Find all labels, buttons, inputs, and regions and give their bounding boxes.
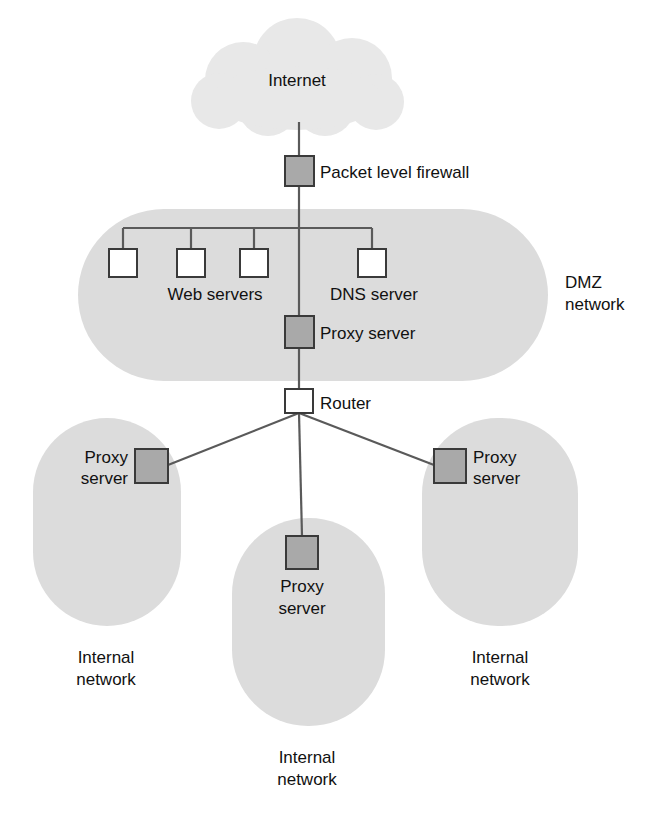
network-diagram: Internet Packet level firewall Web serve… <box>0 0 650 818</box>
link-router-center-proxy <box>299 413 302 536</box>
zone-internal-left-label-line1: Internal <box>78 648 135 667</box>
node-dmz-proxy-server[interactable] <box>285 316 314 348</box>
zone-internal-right-label-line2: network <box>470 670 530 689</box>
node-right-proxy-server[interactable] <box>434 449 466 483</box>
left-proxy-server-label-line1: Proxy <box>85 448 129 467</box>
node-left-proxy-server[interactable] <box>135 449 168 483</box>
zone-internal-right-label-line1: Internal <box>472 648 529 667</box>
dmz-proxy-server-label: Proxy server <box>320 324 416 343</box>
link-router-left-proxy <box>168 413 299 465</box>
left-proxy-server-label-line2: server <box>81 469 129 488</box>
node-router[interactable] <box>285 389 313 413</box>
zone-internal-center-label-line1: Internal <box>279 748 336 767</box>
zone-dmz-label-line2: network <box>565 295 625 314</box>
web-servers-label: Web servers <box>167 285 262 304</box>
network-diagram-canvas: Internet Packet level firewall Web serve… <box>0 0 650 818</box>
right-proxy-server-label-line2: server <box>473 469 521 488</box>
center-proxy-server-label-line1: Proxy <box>280 577 324 596</box>
node-web-server-2[interactable] <box>177 249 205 277</box>
dns-server-label: DNS server <box>330 285 418 304</box>
zone-dmz-shape <box>78 209 548 381</box>
center-proxy-server-label-line2: server <box>278 599 326 618</box>
zone-internal-center-label-line2: network <box>277 770 337 789</box>
node-dns-server[interactable] <box>358 249 386 277</box>
packet-level-firewall-label: Packet level firewall <box>320 163 469 182</box>
node-center-proxy-server[interactable] <box>286 536 318 569</box>
node-packet-level-firewall[interactable] <box>285 156 314 186</box>
internet-label: Internet <box>268 71 326 90</box>
zone-internal-left-label-line2: network <box>76 670 136 689</box>
link-router-right-proxy <box>299 413 434 465</box>
zone-dmz-label-line1: DMZ <box>565 273 602 292</box>
right-proxy-server-label-line1: Proxy <box>473 448 517 467</box>
node-web-server-3[interactable] <box>240 249 268 277</box>
node-web-server-1[interactable] <box>109 249 137 277</box>
router-label: Router <box>320 394 371 413</box>
